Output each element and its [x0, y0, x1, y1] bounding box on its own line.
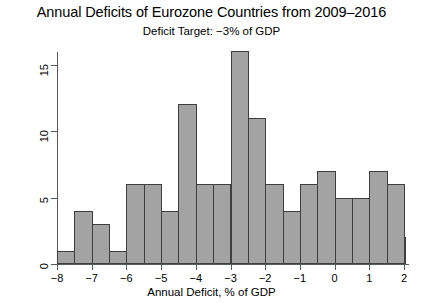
histogram-bar — [335, 198, 353, 265]
histogram-bar — [283, 211, 301, 264]
x-axis-tick — [369, 265, 370, 270]
histogram-figure: Annual Deficits of Eurozone Countries fr… — [0, 0, 423, 303]
x-axis-tick-label: −1 — [294, 272, 307, 284]
x-axis-tick — [161, 265, 162, 270]
x-axis-tick — [231, 265, 232, 270]
x-axis-tick-label: 1 — [366, 272, 372, 284]
x-axis-tick-label: −6 — [120, 272, 133, 284]
histogram-bar — [74, 211, 92, 264]
histogram-bar — [300, 184, 318, 264]
x-axis-tick — [57, 265, 58, 270]
x-axis-tick — [404, 265, 405, 270]
y-axis-tick-label: 10 — [38, 130, 50, 142]
histogram-bar — [317, 171, 335, 264]
histogram-bar — [144, 184, 162, 264]
histogram-bar — [213, 184, 231, 264]
histogram-bar — [352, 198, 370, 265]
histogram-bars — [57, 44, 409, 264]
histogram-bar — [109, 251, 127, 264]
x-axis-tick — [92, 265, 93, 270]
x-axis-tick-label: −2 — [259, 272, 272, 284]
histogram-bar — [92, 224, 110, 264]
histogram-bar — [196, 184, 214, 264]
y-axis-tick-label: 15 — [38, 64, 50, 76]
histogram-bar — [248, 118, 266, 264]
histogram-bar — [57, 251, 75, 264]
x-axis-line — [57, 264, 409, 265]
x-axis-tick-label: 2 — [401, 272, 407, 284]
histogram-bar — [404, 237, 406, 264]
histogram-bar — [231, 51, 249, 264]
y-axis-tick-label: 0 — [38, 263, 50, 269]
histogram-bar — [161, 211, 179, 264]
x-axis-tick-label: −7 — [85, 272, 98, 284]
chart-subtitle: Deficit Target: −3% of GDP — [0, 25, 423, 37]
histogram-bar — [387, 184, 405, 264]
x-axis-tick — [196, 265, 197, 270]
x-axis-tick — [126, 265, 127, 270]
x-axis-tick-label: −8 — [51, 272, 64, 284]
y-axis-tick-label: 5 — [38, 197, 50, 203]
histogram-bar — [265, 184, 283, 264]
histogram-bar — [126, 184, 144, 264]
histogram-bar — [369, 171, 387, 264]
x-axis-title: Annual Deficit, % of GDP — [0, 286, 423, 298]
x-axis-tick — [335, 265, 336, 270]
x-axis-tick-label: 0 — [332, 272, 338, 284]
x-axis-tick-label: −5 — [155, 272, 168, 284]
x-axis-tick-label: −3 — [224, 272, 237, 284]
x-axis-tick-label: −4 — [190, 272, 203, 284]
x-axis-tick — [265, 265, 266, 270]
chart-title: Annual Deficits of Eurozone Countries fr… — [0, 4, 423, 20]
histogram-bar — [178, 104, 196, 264]
x-axis-tick — [300, 265, 301, 270]
